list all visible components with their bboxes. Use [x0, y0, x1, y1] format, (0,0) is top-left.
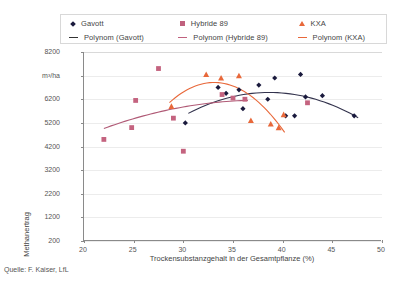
data-point-diamond	[265, 97, 270, 102]
x-tick-label: 25	[121, 246, 145, 253]
data-point-diamond	[352, 113, 357, 118]
y-tick-label: 2200	[8, 190, 60, 198]
data-point-triangle	[236, 73, 242, 79]
data-point-triangle	[268, 121, 274, 127]
legend-label: KXA	[311, 19, 326, 28]
data-point-square	[101, 137, 106, 142]
x-tick-label: 40	[270, 246, 294, 253]
x-tick	[382, 240, 383, 243]
line-marker-icon	[298, 37, 307, 38]
data-point-diamond	[272, 75, 277, 80]
x-tick-label: 20	[71, 246, 95, 253]
data-point-square	[305, 100, 310, 105]
chart-root: Gavott Hybride 89 KXA Polynom (Gavott) P…	[0, 0, 409, 286]
data-point-square	[156, 66, 161, 71]
data-point-square	[220, 92, 225, 97]
legend-item-gavott: Gavott	[61, 16, 178, 31]
triangle-marker-icon	[299, 21, 305, 26]
x-tick-label: 50	[369, 246, 393, 253]
x-tick-label: 35	[220, 246, 244, 253]
y-tick-label: 200	[8, 237, 60, 245]
legend-item-polynom-kxa: Polynom (KXA)	[298, 30, 386, 45]
square-marker-icon	[180, 21, 185, 26]
y-tick-label: 5200	[8, 119, 60, 127]
y-tick-label: 4200	[8, 143, 60, 151]
legend-label: Polynom (Gavott)	[84, 33, 144, 42]
data-point-diamond	[216, 85, 221, 90]
legend-label: Polynom (Hybride 89)	[193, 33, 268, 42]
legend-item-polynom-gavott: Polynom (Gavott)	[61, 30, 178, 45]
legend-label: Polynom (KXA)	[313, 33, 366, 42]
data-point-triangle	[168, 103, 174, 109]
line-marker-icon	[178, 37, 187, 38]
data-point-square	[171, 116, 176, 121]
x-axis-title: Trockensubstanzgehalt in der Gesamtpflan…	[83, 254, 381, 263]
source-note: Quelle: F. Kaiser, LfL	[4, 266, 69, 273]
data-point-square	[243, 97, 248, 102]
scatter-points-layer	[84, 52, 382, 241]
legend-label: Gavott	[81, 19, 104, 28]
legend-item-hybride-89: Hybride 89	[178, 16, 297, 31]
legend-item-kxa: KXA	[298, 16, 386, 31]
data-point-square	[129, 125, 134, 130]
y-tick-label: 3200	[8, 166, 60, 174]
data-point-triangle	[218, 75, 224, 81]
legend-label: Hybride 89	[191, 19, 228, 28]
data-point-diamond	[256, 82, 261, 87]
y-tick-label: 1200	[8, 213, 60, 221]
data-point-square	[231, 96, 236, 101]
diamond-marker-icon	[70, 21, 76, 27]
plot-area	[83, 52, 381, 241]
chart-legend: Gavott Hybride 89 KXA Polynom (Gavott) P…	[60, 14, 387, 44]
data-point-square	[133, 98, 138, 103]
data-point-triangle	[276, 125, 282, 131]
y-tick-label: 8200	[8, 48, 60, 56]
data-point-diamond	[292, 113, 297, 118]
y-tick	[81, 241, 84, 242]
data-point-diamond	[303, 94, 308, 99]
legend-row-markers: Gavott Hybride 89 KXA	[61, 16, 386, 31]
legend-item-polynom-hybride-89: Polynom (Hybride 89)	[178, 30, 297, 45]
y-tick-label: 6200	[8, 95, 60, 103]
data-point-diamond	[236, 87, 241, 92]
x-tick-label: 45	[319, 246, 343, 253]
legend-row-trendlines: Polynom (Gavott) Polynom (Hybride 89) Po…	[61, 30, 386, 45]
data-point-diamond	[183, 120, 188, 125]
x-tick-label: 30	[170, 246, 194, 253]
line-marker-icon	[69, 37, 78, 38]
data-point-diamond	[320, 93, 325, 98]
data-point-square	[181, 149, 186, 154]
data-point-triangle	[248, 118, 254, 124]
data-point-diamond	[240, 106, 245, 111]
y-axis-unit-label: m³/ha	[8, 72, 60, 80]
data-point-diamond	[298, 72, 303, 77]
data-point-triangle	[203, 71, 209, 77]
